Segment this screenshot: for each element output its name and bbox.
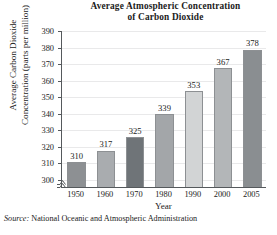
y-axis-tick-labels: 300310320330340350360370380390 xyxy=(0,31,61,188)
bar: 317 xyxy=(97,151,115,187)
source-keyword: Source: xyxy=(4,214,29,223)
chart-title-line-1: Average Atmospheric Concentration xyxy=(58,1,273,12)
bar-value-label: 310 xyxy=(70,151,83,161)
bar-value-label: 353 xyxy=(187,80,200,90)
bar: 339 xyxy=(155,114,173,187)
bar-value-label: 367 xyxy=(217,57,230,67)
y-axis-tick-label: 330 xyxy=(41,126,54,135)
x-axis-tick-label: 1960 xyxy=(97,190,114,199)
bar: 367 xyxy=(214,68,232,187)
y-axis-tick-label: 350 xyxy=(41,93,54,102)
bar: 378 xyxy=(243,50,261,187)
y-axis-tick-label: 380 xyxy=(41,43,54,52)
x-axis-tick-label: 1970 xyxy=(126,190,143,199)
bar-value-label: 325 xyxy=(129,126,142,136)
axis-break-icon xyxy=(56,178,67,189)
x-axis-tick-label: 1950 xyxy=(67,190,84,199)
bar-series: 310317325339353367378 xyxy=(62,31,266,187)
plot-area: 310317325339353367378 xyxy=(61,31,266,188)
x-axis-tick-label: 2005 xyxy=(243,190,260,199)
y-axis-tick-label: 340 xyxy=(41,109,54,118)
y-axis-tick-label: 300 xyxy=(41,175,54,184)
bar-value-label: 317 xyxy=(99,139,112,149)
bar-value-label: 339 xyxy=(158,103,171,113)
x-axis-tick-label: 2000 xyxy=(214,190,231,199)
bar: 325 xyxy=(126,137,144,187)
y-axis-tick-label: 390 xyxy=(41,27,54,36)
bar-value-label: 378 xyxy=(246,38,259,48)
x-axis-tick-label: 1980 xyxy=(155,190,172,199)
bar: 310 xyxy=(67,162,85,187)
y-axis-tick-label: 320 xyxy=(41,142,54,151)
y-axis-tick-label: 360 xyxy=(41,76,54,85)
y-axis-tick-label: 370 xyxy=(41,60,54,69)
x-axis-title: Year xyxy=(61,201,266,211)
chart-figure: Average Atmospheric Concentration of Car… xyxy=(0,0,277,235)
source-note: Source: National Oceanic and Atmospheric… xyxy=(4,214,197,223)
source-text: National Oceanic and Atmospheric Adminis… xyxy=(31,214,197,223)
y-axis-tick-label: 310 xyxy=(41,159,54,168)
chart-title-line-2: of Carbon Dioxide xyxy=(58,12,273,23)
x-axis-tick-label: 1990 xyxy=(184,190,201,199)
page-title: Average Atmospheric Concentration of Car… xyxy=(58,1,273,23)
bar: 353 xyxy=(185,91,203,187)
